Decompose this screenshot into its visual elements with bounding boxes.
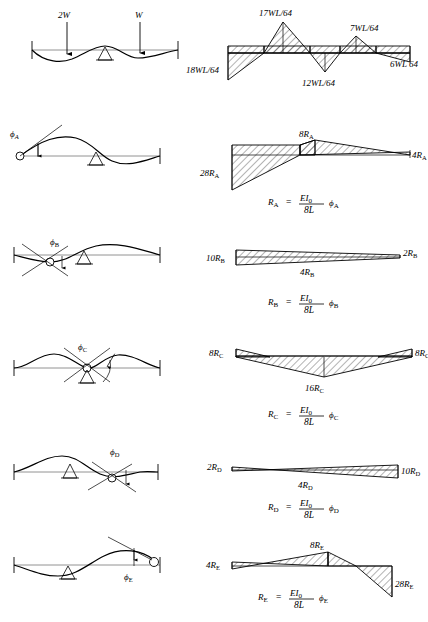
row-phi-A: ϕA 28RA 8RA 4RA RA = EI0 8L ϕA [10, 125, 427, 215]
equation-equals: = [286, 197, 291, 207]
beam-deflection-phi-A: ϕA [10, 125, 160, 165]
moment-area-strip-mid [264, 46, 310, 53]
equation-equals: = [276, 592, 281, 602]
hinge-arm-2 [92, 462, 136, 492]
equation-equals: = [286, 297, 291, 307]
tangent-line [20, 125, 62, 156]
equation-phi-E: RE = EI0 8L ϕE [257, 588, 328, 610]
beam-deflection-phi-B: ϕB [14, 237, 160, 276]
equation-tail: ϕB [329, 298, 339, 310]
support-hinge-right [150, 558, 159, 567]
moment-label-4RE: 4RE [206, 560, 220, 571]
moment-area-left-rise [232, 552, 328, 569]
equation-tail: ϕE [319, 593, 328, 605]
angle-label-phi-E: ϕE [124, 572, 133, 583]
moment-label-12WL64: 12WL/64 [302, 78, 336, 88]
row-phi-C: ϕC 8RC 16RC 8RC RC = EI0 8L ϕC [14, 342, 428, 427]
equation-phi-B: RB = EI0 8L ϕB [267, 293, 339, 315]
row-phi-E: ϕE 4RE 8RE 28RE RE = EI0 8L ϕE [14, 537, 414, 610]
support-pin-middle [87, 152, 105, 165]
moment-label-4RB: 4RB [300, 267, 315, 278]
moment-label-16RC: 16RC [305, 383, 324, 394]
moment-label-6WL64: 6WL 64 [390, 59, 419, 69]
angle-label-phi-C: ϕC [78, 342, 87, 353]
equation-tail: ϕD [329, 503, 339, 515]
equation-lhs: RC [267, 409, 279, 421]
moment-area-peak [300, 140, 315, 155]
moment-area-wedge [232, 465, 398, 478]
support-hinge-inner [108, 474, 116, 482]
moment-label-2RD: 2RD [207, 462, 222, 473]
moment-label-2RB: 2RB [403, 248, 418, 259]
equation-tail: ϕC [329, 410, 339, 422]
equation-numerator: EI0 [299, 405, 313, 417]
moment-diagram-load: 18WL/64 17WL/64 12WL/64 7WL/64 6WL 64 [186, 8, 419, 88]
beam-deflection-phi-D: ϕD [14, 447, 158, 492]
support-pin-middle [96, 47, 114, 60]
moment-label-4RD: 4RD [298, 480, 313, 491]
deflection-curve [32, 46, 178, 61]
hinge-arm-1 [88, 464, 132, 490]
deflection-curve [14, 456, 158, 477]
moment-label-7WL64: 7WL/64 [350, 23, 379, 33]
equation-equals: = [286, 409, 291, 419]
moment-area-strip-left [228, 46, 264, 53]
equation-numerator: EI0 [299, 293, 313, 305]
load-label-2W: 2W [58, 10, 72, 20]
moment-diagram-phi-E: 4RE 8RE 28RE [206, 540, 414, 597]
moment-label-4RA: 4RA [412, 150, 427, 161]
moment-area-strip-right [376, 46, 410, 53]
moment-label-28RE: 28RE [395, 579, 414, 590]
equation-lhs: RA [267, 197, 279, 209]
load-label-W: W [135, 10, 144, 20]
equation-denominator: 8L [304, 205, 314, 215]
support-pin-middle [61, 464, 79, 478]
beam-deflection-phi-E: ϕE [14, 537, 160, 583]
equation-denominator: 8L [304, 305, 314, 315]
moment-area-wedge [236, 250, 400, 265]
moment-area-left [232, 145, 300, 190]
row-phi-B: ϕB 10RB 4RB 2RB RB = EI0 8L ϕB [14, 237, 418, 315]
equation-denominator: 8L [304, 510, 314, 520]
deflection-curve [14, 551, 154, 576]
equation-phi-C: RC = EI0 8L ϕC [267, 405, 339, 427]
angle-label-phi-A: ϕA [10, 129, 19, 140]
moment-label-8RE: 8RE [310, 540, 324, 551]
row-phi-D: ϕD 2RD 4RD 10RD RD = EI0 8L ϕD [14, 447, 421, 520]
equation-equals: = [286, 502, 291, 512]
moment-area-left-negative [228, 53, 264, 80]
angle-label-phi-D: ϕD [110, 447, 120, 458]
angle-label-phi-B: ϕB [50, 237, 60, 248]
equation-denominator: 8L [304, 417, 314, 427]
moment-diagram-phi-B: 10RB 4RB 2RB [206, 248, 418, 278]
moment-diagram-phi-C: 8RC 16RC 8RC [209, 348, 428, 394]
moment-label-8RC-right: 8RC [415, 348, 428, 359]
moment-label-8RC-left: 8RC [209, 348, 223, 359]
moment-area-peak-right-side [328, 552, 356, 566]
moment-label-28RA: 28RA [200, 168, 220, 179]
moment-label-10RD: 10RD [401, 466, 421, 477]
moment-label-17WL64: 17WL/64 [259, 8, 293, 18]
equation-numerator: EI0 [289, 588, 303, 600]
equation-numerator: EI0 [299, 193, 313, 205]
structural-moment-diagram-figure: 2W W 18W [0, 0, 428, 622]
tangent-line [108, 537, 152, 560]
equation-lhs: RD [267, 502, 279, 514]
equation-lhs: RB [267, 297, 279, 309]
angle-indicator [107, 353, 114, 368]
moment-area-right-drop [356, 566, 392, 597]
moment-diagram-phi-A: 28RA 8RA 4RA [200, 129, 427, 190]
moment-label-10RB: 10RB [206, 253, 226, 264]
equation-tail: ϕA [329, 198, 339, 210]
equation-phi-D: RD = EI0 8L ϕD [267, 498, 339, 520]
moment-label-18WL64: 18WL/64 [186, 65, 220, 75]
beam-deflection-load: 2W W [32, 10, 178, 61]
equation-denominator: 8L [294, 600, 304, 610]
equation-numerator: EI0 [299, 498, 313, 510]
equation-phi-A: RA = EI0 8L ϕA [267, 193, 339, 215]
row-load: 2W W 18W [32, 8, 419, 88]
equation-lhs: RE [257, 592, 268, 604]
moment-area-right-tip [378, 349, 412, 357]
beam-deflection-phi-C: ϕC [14, 342, 160, 383]
moment-label-8RA: 8RA [299, 129, 314, 140]
